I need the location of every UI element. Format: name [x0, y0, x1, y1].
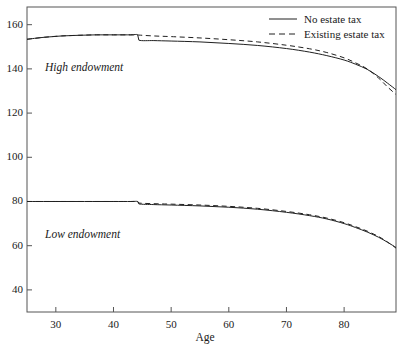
x-axis-ticks: [56, 307, 344, 312]
series-line-low-endowment-no-estate-tax: [27, 201, 396, 247]
y-axis-ticks: [27, 25, 32, 290]
legend-swatch-dashed: [268, 29, 298, 39]
chart-figure: 406080100120140160 304050607080 Age High…: [0, 0, 410, 350]
y-tick-label: 80: [1, 194, 23, 206]
y-tick-label: 40: [1, 283, 23, 295]
chart-legend: No estate tax Existing estate tax: [268, 11, 385, 41]
y-tick-label: 160: [1, 18, 23, 30]
x-tick-label: 80: [331, 318, 357, 330]
y-tick-label: 120: [1, 106, 23, 118]
legend-item-no-estate-tax: No estate tax: [268, 11, 385, 26]
plot-frame: [27, 7, 396, 312]
annotation-high-endowment: High endowment: [45, 61, 123, 73]
y-tick-label: 60: [1, 239, 23, 251]
x-tick-label: 40: [100, 318, 126, 330]
legend-swatch-solid: [268, 14, 298, 24]
annotation-low-endowment: Low endowment: [45, 228, 120, 240]
x-tick-label: 50: [158, 318, 184, 330]
x-axis-title: Age: [0, 331, 410, 343]
y-tick-label: 140: [1, 62, 23, 74]
legend-item-existing-estate-tax: Existing estate tax: [268, 26, 385, 41]
y-tick-label: 100: [1, 150, 23, 162]
plot-area: [0, 0, 410, 350]
series-line-low-endowment-existing-estate-tax: [27, 201, 396, 248]
x-tick-label: 30: [43, 318, 69, 330]
x-tick-label: 70: [273, 318, 299, 330]
legend-label-existing-estate-tax: Existing estate tax: [304, 28, 385, 40]
x-tick-label: 60: [216, 318, 242, 330]
legend-label-no-estate-tax: No estate tax: [304, 13, 361, 25]
